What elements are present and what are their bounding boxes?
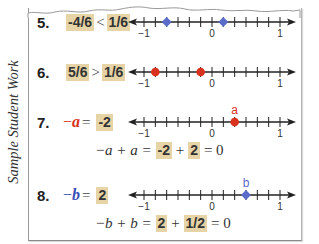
point-diamond-icon — [241, 190, 251, 200]
tick-label: −1 — [138, 201, 150, 212]
tick-label: 0 — [209, 78, 215, 89]
tick-label: 1 — [277, 128, 283, 139]
tick-label: 1 — [277, 78, 283, 89]
tick-label: 1 — [277, 201, 283, 212]
point-dot-icon — [230, 118, 239, 127]
number-lines: −101−101−101a−101b — [0, 0, 319, 244]
point-diamond-icon — [218, 17, 228, 27]
tick-label: 1 — [277, 28, 283, 39]
tick-label: −1 — [138, 78, 150, 89]
tick-label: 0 — [209, 28, 215, 39]
point-dot-icon — [151, 68, 160, 77]
tick-label: 0 — [209, 201, 215, 212]
tick-label: −1 — [138, 28, 150, 39]
point-label: a — [231, 103, 238, 117]
point-dot-icon — [196, 68, 205, 77]
point-label: b — [243, 176, 250, 190]
point-diamond-icon — [162, 17, 172, 27]
tick-label: −1 — [138, 128, 150, 139]
tick-label: 0 — [209, 128, 215, 139]
